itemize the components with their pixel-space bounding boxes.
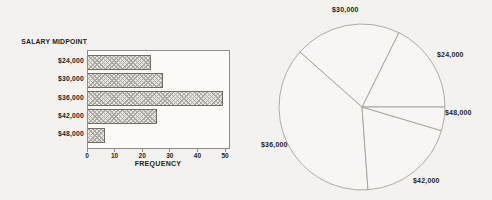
bar-24000 — [88, 55, 151, 70]
category-label-48000: $48,000 — [0, 129, 84, 139]
bar-42000 — [88, 109, 157, 124]
x-tick-label-40: 40 — [187, 152, 207, 160]
category-label-42000: $42,000 — [0, 111, 84, 121]
x-tick-label-10: 10 — [105, 152, 125, 160]
bar-48000 — [88, 128, 105, 143]
bar-36000 — [88, 91, 223, 106]
category-label-30000: $30,000 — [0, 74, 84, 84]
figure-two-charts: SALARY MIDPOINT $24,000$30,000$36,000$42… — [0, 0, 492, 200]
bar-30000 — [88, 73, 163, 88]
pie-label-30000: $30,000 — [332, 5, 359, 15]
pie-label-24000: $24,000 — [437, 50, 464, 60]
x-tick-label-30: 30 — [160, 152, 180, 160]
pie-label-36000: $36,000 — [261, 140, 288, 150]
pie-label-48000: $48,000 — [445, 108, 472, 118]
bar-chart-plot-area — [87, 50, 230, 149]
category-label-24000: $24,000 — [0, 56, 84, 66]
pie-label-42000: $42,000 — [413, 176, 440, 186]
pie-svg — [278, 23, 446, 191]
category-label-36000: $36,000 — [0, 93, 84, 103]
bar-chart-title: SALARY MIDPOINT — [0, 38, 87, 45]
x-tick-label-50: 50 — [215, 152, 235, 160]
x-tick-label-0: 0 — [77, 152, 97, 160]
x-tick-label-20: 20 — [132, 152, 152, 160]
x-axis-title: FREQUENCY — [87, 160, 229, 167]
